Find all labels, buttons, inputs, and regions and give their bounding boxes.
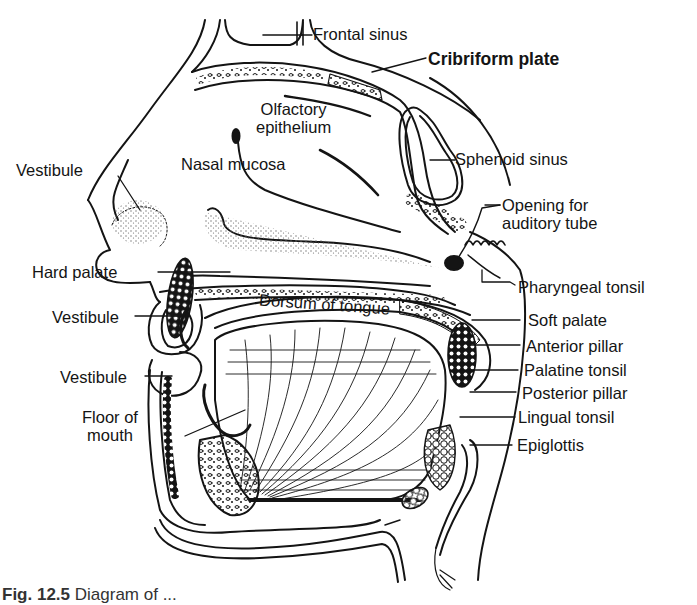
label-soft-palate: Soft palate (528, 311, 607, 329)
label-lingual-tonsil: Lingual tonsil (518, 408, 614, 426)
label-opening-auditory-tube: Opening for auditory tube (502, 196, 597, 232)
label-epiglottis: Epiglottis (517, 436, 584, 454)
label-vestibule-nose: Vestibule (16, 161, 83, 179)
label-olfactory-epithelium: Olfactory epithelium (256, 100, 331, 136)
label-cribriform-plate: Cribriform plate (428, 50, 559, 68)
caption-number: Fig. 12.5 (2, 585, 70, 604)
caption-text: Diagram of ... (75, 585, 177, 604)
lingual-tonsil-epiglottis (398, 425, 477, 590)
label-vestibule-upper: Vestibule (52, 308, 119, 326)
figure-caption: Fig. 12.5 Diagram of ... (2, 585, 177, 605)
label-vestibule-lower: Vestibule (60, 368, 127, 386)
label-hard-palate: Hard palate (32, 263, 117, 281)
label-pharyngeal-tonsil: Pharyngeal tonsil (518, 278, 645, 296)
label-floor-of-mouth: Floor of mouth (82, 408, 138, 444)
label-sphenoid-sinus: Sphenoid sinus (455, 150, 568, 168)
label-anterior-pillar: Anterior pillar (526, 337, 623, 355)
label-nasal-mucosa: Nasal mucosa (181, 155, 286, 173)
label-frontal-sinus: Frontal sinus (313, 25, 407, 43)
label-palatine-tonsil: Palatine tonsil (524, 361, 627, 379)
label-posterior-pillar: Posterior pillar (522, 384, 627, 402)
palatine-tonsil-shape (448, 323, 476, 387)
pharyngeal-tonsil (465, 232, 525, 580)
